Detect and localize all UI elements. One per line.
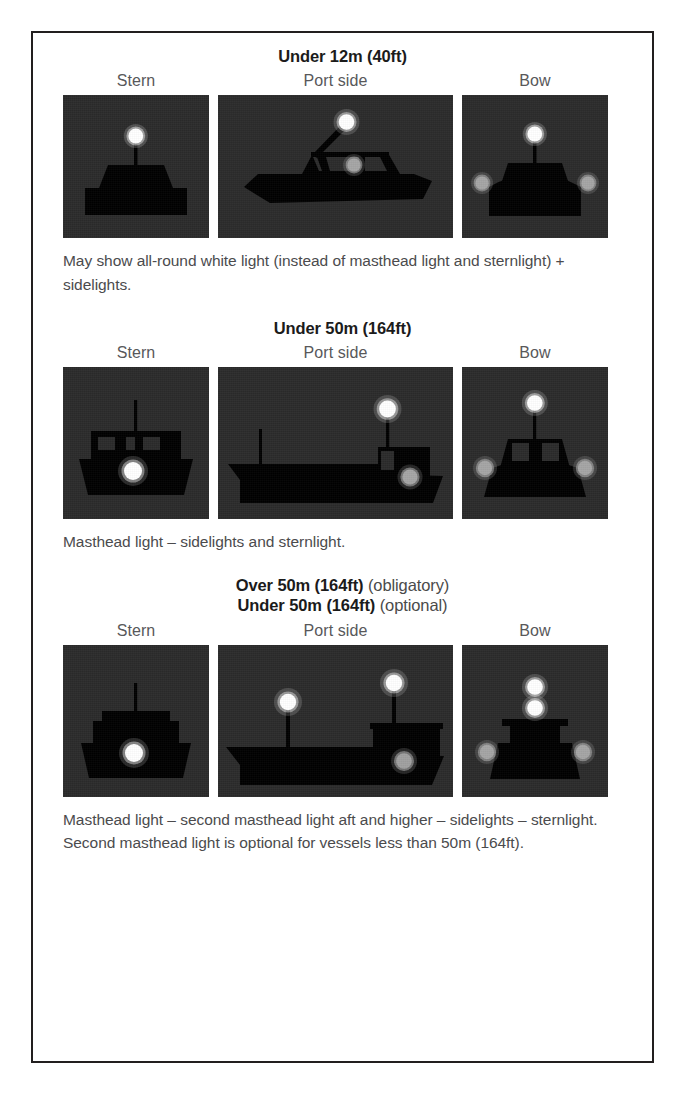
section-heading-under-12m: Under 12m (40ft) [63,47,622,66]
sternlight [119,738,149,768]
view-label-stern: Stern [63,622,209,640]
vessel-silhouette-small-motorboat-bow [489,139,581,216]
panels-row-under-50m [63,367,622,519]
panel-port-over-50m [218,645,453,797]
section-spacer-2 [33,554,652,576]
heading-line-obligatory: Over 50m (164ft) (obligatory) [63,576,622,595]
caption-over-50m: Masthead light – second masthead light a… [63,808,622,855]
sternlight [118,456,148,486]
panel-bow-under-50m [462,367,608,519]
all-round-white-light [124,124,148,148]
panel-bow-under-12m [462,95,608,238]
heading-bold-text: Under 50m (164ft) [274,319,412,337]
section-heading-under-50m: Under 50m (164ft) [63,319,622,338]
view-labels-row-3: Stern Port side Bow [63,622,622,640]
navigation-lights-figure-card: Under 12m (40ft) Stern Port side Bow [31,31,654,1063]
section-under-12m: Under 12m (40ft) Stern Port side Bow [33,33,652,297]
aft-masthead-light [380,669,408,697]
view-label-stern: Stern [63,72,209,90]
starboard-sidelight [577,172,599,194]
masthead-light [522,390,548,416]
view-labels-row-1: Stern Port side Bow [63,72,622,90]
section-over-50m: Over 50m (164ft) (obligatory) Under 50m … [33,576,652,855]
caption-under-50m: Masthead light – sidelights and sternlig… [63,530,622,554]
masthead-white-light [523,122,547,146]
panel-stern-under-12m [63,95,209,238]
masthead-light [374,395,402,423]
heading-regular-text: (optional) [375,596,447,614]
vessel-silhouette-ship-bow [484,409,586,497]
port-sidelight [398,465,423,490]
heading-bold-text: Under 12m (40ft) [278,47,407,65]
view-label-stern: Stern [63,344,209,362]
panels-row-under-12m [63,95,622,238]
panel-port-under-12m [218,95,453,238]
heading-regular-text: (obligatory) [363,576,449,594]
heading-line-optional: Under 50m (164ft) (optional) [63,596,622,615]
view-label-port: Port side [218,344,453,362]
port-sidelight [391,748,417,774]
lower-masthead-light [522,695,548,721]
panels-row-over-50m [63,645,622,797]
panel-stern-over-50m [63,645,209,797]
vessel-silhouette-ship-bow-two-masthead [490,719,580,779]
vessel-silhouette-cargo-ship-port [228,415,443,503]
view-label-bow: Bow [462,72,608,90]
section-heading-over-50m: Over 50m (164ft) (obligatory) Under 50m … [63,576,622,616]
masthead-white-light [334,109,360,135]
heading-bold-text: Over 50m (164ft) [236,576,364,594]
starboard-sidelight [571,740,595,764]
view-label-bow: Bow [462,622,608,640]
port-sidelight [343,154,365,176]
view-label-port: Port side [218,72,453,90]
heading-line: Under 12m (40ft) [63,47,622,66]
panel-stern-under-50m [63,367,209,519]
forward-masthead-light [274,688,302,716]
section-under-50m: Under 50m (164ft) Stern Port side Bow [33,319,652,554]
port-sidelight [475,740,499,764]
section-spacer-1 [33,297,652,319]
port-sidelight [471,172,493,194]
port-sidelight [473,456,497,480]
view-labels-row-2: Stern Port side Bow [63,344,622,362]
heading-bold-text: Under 50m (164ft) [238,596,376,614]
vessel-silhouette-small-motorboat-stern [85,141,187,215]
starboard-sidelight [573,456,597,480]
caption-under-12m: May show all-round white light (instead … [63,249,622,296]
view-label-bow: Bow [462,344,608,362]
vessel-silhouette-speedboat-port [244,122,432,203]
heading-line: Under 50m (164ft) [63,319,622,338]
panel-bow-over-50m [462,645,608,797]
panel-port-under-50m [218,367,453,519]
view-label-port: Port side [218,622,453,640]
